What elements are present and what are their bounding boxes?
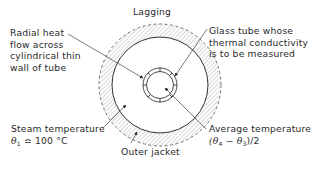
radial-line-3: cylindrical thin <box>10 50 81 62</box>
steam-value: θ1 ≏ 100 °C <box>11 135 105 150</box>
avg-close: )/2 <box>246 135 259 146</box>
glass-line-1: Glass tube whose <box>209 25 308 37</box>
avg-mid: − θ <box>223 135 243 146</box>
avg-formula: (θ4 − θ3)/2 <box>209 135 311 150</box>
avg-line-1: Average temperature <box>209 123 311 135</box>
radial-line-2: flow across <box>10 39 81 51</box>
steam-line-1: Steam temperature <box>11 123 105 135</box>
steam-value-text: ≏ 100 °C <box>21 135 68 146</box>
label-average-temperature: Average temperature (θ4 − θ3)/2 <box>209 123 311 149</box>
radial-line-4: wall of tube <box>10 62 81 74</box>
avg-open: (θ <box>209 135 219 146</box>
label-outer-jacket: Outer jacket <box>121 146 180 158</box>
outer-jacket-circle <box>112 37 208 133</box>
glass-line-2: thermal conductivity <box>209 37 308 49</box>
glass-line-3: is to be measured <box>209 48 308 60</box>
label-glass-tube: Glass tube whose thermal conductivity is… <box>209 25 308 60</box>
radial-line-1: Radial heat <box>10 27 81 39</box>
label-lagging: Lagging <box>133 6 171 18</box>
label-radial-heat-flow: Radial heat flow across cylindrical thin… <box>10 27 81 73</box>
label-steam-temperature: Steam temperature θ1 ≏ 100 °C <box>11 123 105 149</box>
